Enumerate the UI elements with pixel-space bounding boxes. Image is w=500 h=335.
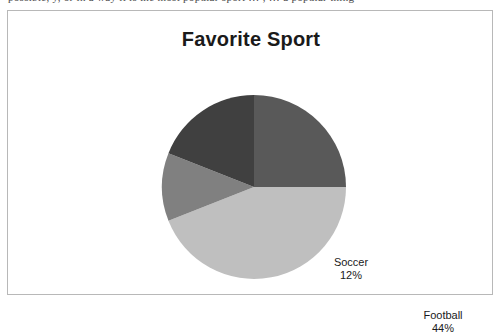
chart-title: Favorite Sport [8,28,494,51]
slice-label-basketball-value: 25% [411,227,497,240]
slice-label-football: Football 44% [403,309,483,335]
pie-slice-basketball [254,95,346,187]
slice-label-basketball-name: Basketball [411,214,497,227]
chart-frame: Favorite Sport Basketball 25% Football 4… [7,10,493,295]
slice-label-baseball-name: Baseball [343,195,423,208]
pie-chart-svg [161,94,347,280]
slice-label-baseball-value: 19% [343,208,423,221]
document-text-fragment-line: possible, y, or in a way it is the most … [8,0,478,3]
slice-label-football-name: Football [403,309,483,322]
slice-label-baseball: Baseball 19% [343,195,423,221]
pie-chart: Basketball 25% Football 44% Soccer 12% B… [161,94,347,280]
slice-label-football-value: 44% [403,322,483,335]
document-text-fragment: possible, y, or in a way it is the most … [0,0,500,7]
slice-label-basketball: Basketball 25% [411,214,497,240]
